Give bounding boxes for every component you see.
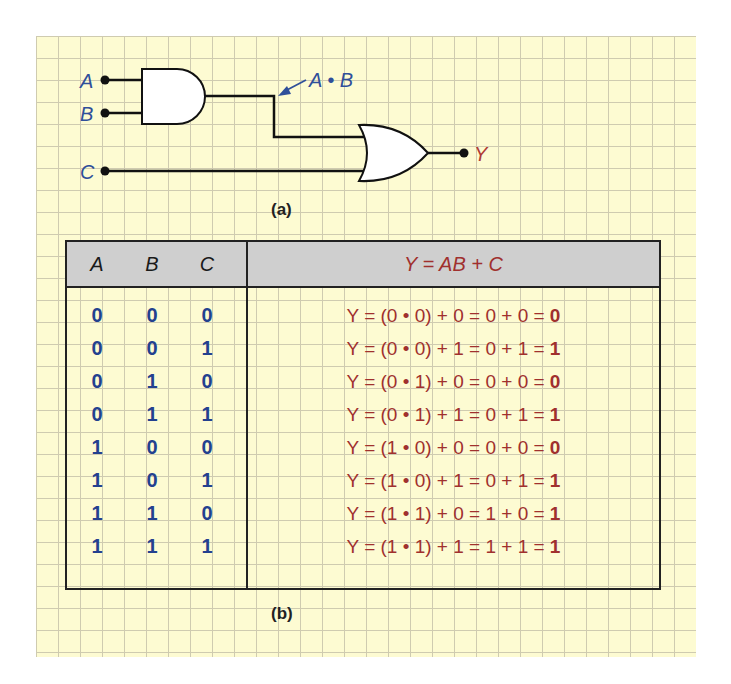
bit-a: 1 (82, 464, 112, 497)
bit-c: 1 (192, 398, 222, 431)
or-gate-icon (359, 125, 428, 181)
result-value: 1 (550, 536, 561, 557)
truth-table-header: A B C Y = AB + C (67, 242, 659, 288)
row-expression: Y = (1 • 0) + 1 = 0 + 1 = 1 (248, 464, 659, 497)
bit-b: 1 (137, 530, 167, 563)
caption-a: (a) (271, 200, 292, 220)
bit-a: 0 (82, 398, 112, 431)
terminal-dot-a (101, 76, 110, 85)
bit-a: 0 (82, 365, 112, 398)
result-value: 0 (550, 437, 561, 458)
header-expression: Y = AB + C (248, 242, 659, 286)
expression-text: Y = (1 • 0) + 1 = 0 + 1 = (347, 470, 550, 491)
terminal-dot-b (101, 109, 110, 118)
table-row: 110Y = (1 • 1) + 0 = 1 + 0 = 1 (67, 497, 659, 530)
row-expression: Y = (1 • 1) + 1 = 1 + 1 = 1 (248, 530, 659, 563)
arrow-head-icon (278, 86, 291, 96)
bit-b: 1 (137, 398, 167, 431)
row-expression: Y = (0 • 0) + 0 = 0 + 0 = 0 (248, 299, 659, 332)
intermediate-label: A • B (308, 69, 353, 91)
terminal-dot-y (460, 149, 469, 158)
bit-a: 0 (82, 332, 112, 365)
bit-c: 1 (192, 464, 222, 497)
bit-b: 0 (137, 464, 167, 497)
input-label-b: B (80, 103, 93, 125)
bit-a: 1 (82, 431, 112, 464)
bit-c: 0 (192, 365, 222, 398)
header-c: C (192, 242, 222, 286)
expression-text: Y = (0 • 1) + 1 = 0 + 1 = (347, 404, 550, 425)
bit-b: 0 (137, 332, 167, 365)
table-row: 111Y = (1 • 1) + 1 = 1 + 1 = 1 (67, 530, 659, 563)
bit-a: 0 (82, 299, 112, 332)
truth-table: A B C Y = AB + C 000Y = (0 • 0) + 0 = 0 … (65, 240, 661, 590)
bit-b: 1 (137, 365, 167, 398)
terminal-dot-c (101, 167, 110, 176)
bit-c: 1 (192, 332, 222, 365)
table-row: 101Y = (1 • 0) + 1 = 0 + 1 = 1 (67, 464, 659, 497)
table-row: 010Y = (0 • 1) + 0 = 0 + 0 = 0 (67, 365, 659, 398)
bit-c: 1 (192, 530, 222, 563)
input-label-a: A (79, 70, 93, 92)
expression-text: Y = (1 • 0) + 0 = 0 + 0 = (347, 437, 550, 458)
expression-text: Y = (0 • 0) + 1 = 0 + 1 = (347, 338, 550, 359)
bit-c: 0 (192, 299, 222, 332)
row-expression: Y = (1 • 0) + 0 = 0 + 0 = 0 (248, 431, 659, 464)
row-expression: Y = (0 • 1) + 1 = 0 + 1 = 1 (248, 398, 659, 431)
row-expression: Y = (0 • 1) + 0 = 0 + 0 = 0 (248, 365, 659, 398)
row-expression: Y = (1 • 1) + 0 = 1 + 0 = 1 (248, 497, 659, 530)
expression-text: Y = (1 • 1) + 0 = 1 + 0 = (347, 503, 550, 524)
input-label-c: C (80, 161, 95, 183)
bit-a: 1 (82, 497, 112, 530)
header-b: B (137, 242, 167, 286)
expression-text: Y = (0 • 1) + 0 = 0 + 0 = (347, 371, 550, 392)
bit-b: 1 (137, 497, 167, 530)
bit-c: 0 (192, 497, 222, 530)
row-expression: Y = (0 • 0) + 1 = 0 + 1 = 1 (248, 332, 659, 365)
result-value: 0 (550, 371, 561, 392)
table-row: 000Y = (0 • 0) + 0 = 0 + 0 = 0 (67, 299, 659, 332)
result-value: 0 (550, 305, 561, 326)
header-a: A (82, 242, 112, 286)
expression-text: Y = (0 • 0) + 0 = 0 + 0 = (347, 305, 550, 326)
logic-circuit: A B C A • B Y (0, 0, 731, 230)
table-row: 100Y = (1 • 0) + 0 = 0 + 0 = 0 (67, 431, 659, 464)
bit-a: 1 (82, 530, 112, 563)
bit-c: 0 (192, 431, 222, 464)
bit-b: 0 (137, 299, 167, 332)
and-gate-icon (142, 69, 205, 124)
table-row: 001Y = (0 • 0) + 1 = 0 + 1 = 1 (67, 332, 659, 365)
output-label-y: Y (474, 143, 489, 165)
bit-b: 0 (137, 431, 167, 464)
caption-b: (b) (271, 604, 293, 624)
wire-and-output (205, 96, 368, 137)
result-value: 1 (550, 503, 561, 524)
expression-text: Y = (1 • 1) + 1 = 1 + 1 = (347, 536, 550, 557)
result-value: 1 (550, 470, 561, 491)
result-value: 1 (550, 404, 561, 425)
table-row: 011Y = (0 • 1) + 1 = 0 + 1 = 1 (67, 398, 659, 431)
result-value: 1 (550, 338, 561, 359)
